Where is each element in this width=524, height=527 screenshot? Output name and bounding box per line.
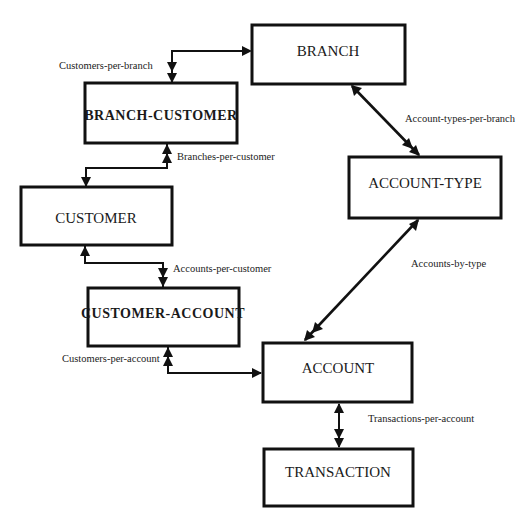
connector-accounts-by-type: Accounts-by-type	[304, 219, 487, 341]
connector-line	[305, 220, 418, 340]
connector-line	[86, 144, 167, 186]
entity-branch-label: BRANCH	[297, 43, 360, 59]
entity-customer-label: CUSTOMER	[55, 210, 136, 226]
er-diagram: BRANCH BRANCH-CUSTOMER CUSTOMER ACCOUNT-…	[0, 0, 524, 527]
relationship-label-customers-per-branch: Customers-per-branch	[59, 60, 153, 71]
entity-branch-customer[interactable]: BRANCH-CUSTOMER	[84, 83, 238, 143]
arrow-double-icon	[334, 429, 344, 439]
entity-account-type-label: ACCOUNT-TYPE	[368, 175, 482, 191]
relationship-label-accounts-per-customer: Accounts-per-customer	[173, 263, 272, 274]
connector-branches-per-customer: Branches-per-customer	[81, 144, 275, 187]
arrow-double-icon	[158, 277, 168, 287]
arrow-double-icon	[334, 438, 344, 448]
entity-branch[interactable]: BRANCH	[252, 25, 405, 84]
arrow-double-icon	[163, 347, 173, 357]
connector-line	[172, 51, 250, 83]
arrow-double-icon	[158, 268, 168, 278]
relationship-label-accounts-by-type: Accounts-by-type	[411, 258, 487, 269]
arrow-single-icon	[334, 403, 344, 413]
relationship-label-customers-per-account: Customers-per-account	[62, 353, 160, 364]
arrow-double-icon	[162, 153, 172, 163]
relationship-label-transactions-per-account: Transactions-per-account	[368, 413, 474, 424]
arrow-double-icon	[162, 144, 172, 154]
entity-account[interactable]: ACCOUNT	[263, 343, 412, 402]
arrow-double-icon	[163, 356, 173, 366]
connector-line	[85, 246, 163, 287]
connector-line	[168, 347, 261, 373]
arrow-single-icon	[80, 246, 90, 256]
entity-account-type[interactable]: ACCOUNT-TYPE	[349, 157, 501, 218]
entity-transaction[interactable]: TRANSACTION	[264, 449, 413, 506]
arrow-single-icon	[252, 368, 262, 378]
relationship-label-account-types-per-branch: Account-types-per-branch	[405, 113, 516, 124]
entity-branch-customer-label: BRANCH-CUSTOMER	[84, 108, 238, 123]
connector-transactions-per-account: Transactions-per-account	[334, 403, 474, 448]
entity-account-label: ACCOUNT	[302, 360, 375, 376]
connector-customers-per-branch: Customers-per-branch	[59, 46, 252, 83]
entity-customer-account-label: CUSTOMER-ACCOUNT	[81, 306, 245, 321]
entity-customer-account[interactable]: CUSTOMER-ACCOUNT	[81, 288, 245, 346]
entity-customer[interactable]: CUSTOMER	[21, 187, 172, 245]
connector-account-types-per-branch: Account-types-per-branch	[351, 85, 516, 156]
relationship-label-branches-per-customer: Branches-per-customer	[177, 151, 275, 162]
connector-customers-per-account: Customers-per-account	[62, 347, 262, 378]
connector-accounts-per-customer: Accounts-per-customer	[80, 246, 272, 287]
entity-transaction-label: TRANSACTION	[285, 464, 391, 480]
arrow-double-icon	[167, 62, 177, 72]
